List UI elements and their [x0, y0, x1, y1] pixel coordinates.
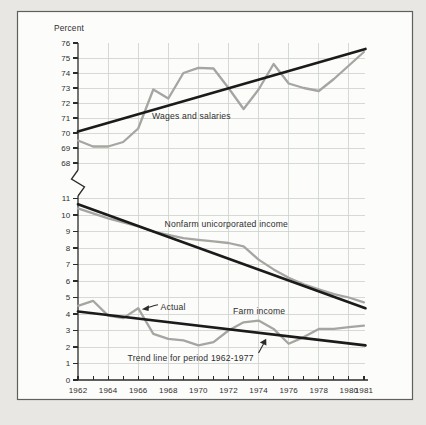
- percent-axis-title: Percent: [54, 23, 84, 33]
- farm-label: Farm income: [233, 306, 285, 316]
- y-tick-label-lower: 7: [66, 260, 71, 269]
- y-tick-label-upper: 68: [61, 159, 71, 168]
- y-tick-label-lower: 11: [62, 194, 71, 203]
- scanned-chart-page: 7675747372717069681110987654321019621964…: [0, 0, 426, 425]
- y-tick-label-lower: 8: [66, 244, 71, 253]
- x-tick-label: 1970: [189, 386, 208, 395]
- y-tick-label-lower: 1: [66, 359, 71, 368]
- y-tick-label-upper: 71: [61, 114, 71, 123]
- x-tick-label: 1966: [129, 386, 148, 395]
- y-tick-label-lower: 6: [66, 277, 71, 286]
- trend-annotation-label: Trend line for period 1962-1977: [128, 353, 254, 363]
- x-tick-label: 1972: [219, 386, 238, 395]
- y-tick-label-upper: 70: [61, 129, 71, 138]
- y-tick-label-upper: 73: [61, 84, 71, 93]
- x-tick-label: 1978: [309, 386, 328, 395]
- wages-label: Wages and salaries: [152, 111, 231, 121]
- y-tick-label-upper: 74: [61, 69, 71, 78]
- x-tick-label: 1968: [159, 386, 178, 395]
- x-tick-label: 1964: [99, 386, 118, 395]
- y-tick-label-lower: 9: [66, 227, 71, 236]
- x-tick-label: 1981: [355, 386, 374, 395]
- y-tick-label-lower: 2: [66, 343, 71, 352]
- y-tick-label-upper: 72: [61, 99, 71, 108]
- y-tick-label-lower: 0: [66, 376, 71, 385]
- y-tick-label-lower: 3: [66, 326, 71, 335]
- x-tick-label: 1962: [69, 386, 88, 395]
- y-tick-label-lower: 4: [66, 310, 71, 319]
- y-tick-label-upper: 75: [61, 54, 71, 63]
- percent-income-shares-chart: 7675747372717069681110987654321019621964…: [0, 0, 426, 425]
- y-tick-label-upper: 69: [61, 144, 71, 153]
- x-tick-label: 1976: [279, 386, 298, 395]
- y-tick-label-lower: 5: [66, 293, 71, 302]
- y-tick-label-lower: 10: [61, 211, 71, 220]
- x-tick-label: 1974: [249, 386, 268, 395]
- nonfarm-label: Nonfarm unicorporated income: [165, 219, 289, 229]
- y-tick-label-upper: 76: [61, 39, 71, 48]
- actual-annotation-label: Actual: [161, 302, 186, 312]
